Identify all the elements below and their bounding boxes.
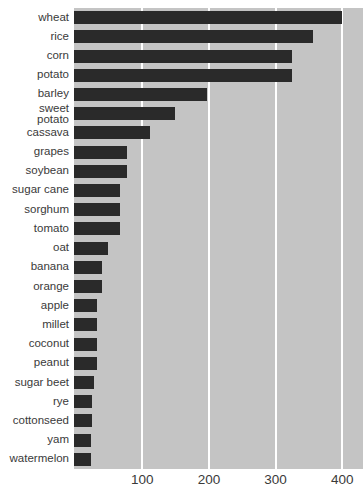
category-label-cassava: cassava xyxy=(0,127,69,139)
bar-sweet-potato xyxy=(74,107,175,120)
bar-grapes xyxy=(74,146,127,159)
bar-rye xyxy=(74,395,92,408)
category-label-rye: rye xyxy=(0,396,69,408)
category-label-sorghum: sorghum xyxy=(0,204,69,216)
bar-sugar-beet xyxy=(74,376,94,389)
x-tick-label-300: 300 xyxy=(264,472,287,487)
bar-soybean xyxy=(74,165,127,178)
category-label-corn: corn xyxy=(0,50,69,62)
category-label-sugar-beet: sugar beet xyxy=(0,377,69,389)
x-tick-label-100: 100 xyxy=(131,472,154,487)
bar-watermelon xyxy=(74,453,91,466)
gridline-400 xyxy=(341,8,343,469)
category-label-millet: millet xyxy=(0,319,69,331)
category-label-rice: rice xyxy=(0,31,69,43)
bar-potato xyxy=(74,69,292,82)
bar-cottonseed xyxy=(74,414,92,427)
category-label-sugar-cane: sugar cane xyxy=(0,185,69,197)
category-label-soybean: soybean xyxy=(0,166,69,178)
bar-cassava xyxy=(74,126,150,139)
category-label-yam: yam xyxy=(0,434,69,446)
value-axis: 100200300400 xyxy=(0,472,363,492)
bar-corn xyxy=(74,50,292,63)
bar-rice xyxy=(74,30,313,43)
x-tick-label-200: 200 xyxy=(198,472,221,487)
category-label-sweet-potato: sweet potato xyxy=(0,102,69,125)
category-label-watermelon: watermelon xyxy=(0,454,69,466)
category-label-peanut: peanut xyxy=(0,358,69,370)
category-label-barley: barley xyxy=(0,89,69,101)
category-label-oat: oat xyxy=(0,242,69,254)
bar-apple xyxy=(74,299,97,312)
bar-oat xyxy=(74,242,108,255)
bar-sorghum xyxy=(74,203,120,216)
bar-orange xyxy=(74,280,102,293)
category-axis: wheatricecornpotatobarleysweet potatocas… xyxy=(0,8,69,469)
category-label-potato: potato xyxy=(0,69,69,81)
category-label-grapes: grapes xyxy=(0,146,69,158)
bar-barley xyxy=(74,88,207,101)
category-label-orange: orange xyxy=(0,281,69,293)
bar-sugar-cane xyxy=(74,184,120,197)
category-label-coconut: coconut xyxy=(0,338,69,350)
category-label-banana: banana xyxy=(0,262,69,274)
bar-millet xyxy=(74,318,97,331)
category-label-tomato: tomato xyxy=(0,223,69,235)
category-label-cottonseed: cottonseed xyxy=(0,415,69,427)
bar-chart: wheatricecornpotatobarleysweet potatocas… xyxy=(0,0,363,499)
bar-peanut xyxy=(74,357,97,370)
x-tick-label-400: 400 xyxy=(331,472,354,487)
category-label-apple: apple xyxy=(0,300,69,312)
plot-area xyxy=(74,8,363,469)
bar-banana xyxy=(74,261,102,274)
bar-yam xyxy=(74,434,91,447)
bar-wheat xyxy=(74,11,342,24)
bar-coconut xyxy=(74,338,97,351)
category-label-wheat: wheat xyxy=(0,12,69,24)
bar-tomato xyxy=(74,222,120,235)
